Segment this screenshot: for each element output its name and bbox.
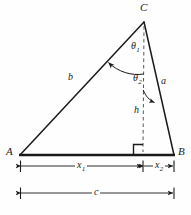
side-label-a: a [161, 76, 166, 86]
angle-label-theta-1: θ1 [131, 41, 139, 51]
theta-2-arc [143, 90, 154, 103]
dim-x1-glyph: x [77, 159, 81, 170]
angle-label-theta-2: θ2 [133, 73, 141, 83]
altitude-dashed-line [143, 26, 144, 152]
right-angle-marker [134, 145, 144, 155]
theta-2-subscript: 2 [138, 78, 142, 86]
theta-1-subscript: 1 [136, 46, 140, 54]
side-b-line [20, 22, 144, 155]
dim-c-glyph: c [94, 186, 98, 197]
vertex-label-B: B [178, 146, 185, 157]
diagram-canvas [0, 0, 191, 215]
geometry-figure: C A B b a h θ1 θ2 x1 x2 c [0, 0, 191, 215]
dim-label-x2: x2 [153, 160, 165, 170]
altitude-label-h: h [134, 105, 139, 115]
vertex-label-C: C [140, 2, 147, 13]
side-label-b: b [68, 72, 73, 82]
dim-x1-subscript: 1 [82, 165, 86, 173]
dim-x2-glyph: x [155, 159, 159, 170]
dim-x2-subscript: 2 [160, 165, 164, 173]
side-a-line [144, 22, 174, 155]
vertex-label-A: A [6, 146, 13, 157]
dim-label-c: c [92, 187, 100, 197]
dim-label-x1: x1 [75, 160, 87, 170]
